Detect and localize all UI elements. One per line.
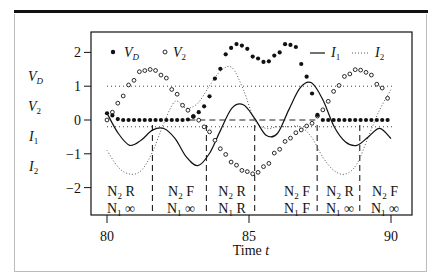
series-vd-marker	[159, 118, 163, 122]
series-vd-marker	[294, 45, 298, 49]
series-vd-marker	[278, 50, 282, 54]
series-v2-marker	[348, 72, 352, 76]
region-n1-label: N1 R	[218, 201, 246, 218]
series-v2-marker	[310, 121, 314, 125]
left-variable-labels: VD V2 I1 I2	[28, 69, 44, 176]
series-v2-marker	[137, 70, 141, 74]
series-vd-marker	[326, 118, 330, 122]
series-v2-marker	[353, 68, 357, 72]
series-v2-marker	[262, 165, 266, 169]
region-n2-label: N2 R	[107, 184, 135, 201]
series-vd-marker	[197, 110, 201, 114]
legend-i2-label: I2	[374, 45, 384, 62]
var-label-i2: I2	[28, 159, 38, 176]
series-vd-marker	[240, 43, 244, 47]
series-vd-marker	[132, 118, 136, 122]
series-v2-marker	[359, 68, 363, 72]
var-label-i1: I1	[28, 129, 38, 146]
y-tick-label: 0	[74, 113, 81, 128]
y-tick-label: 2	[74, 45, 81, 60]
plot-area	[91, 32, 412, 215]
series-vd-marker	[121, 118, 125, 122]
region-n2-label: N2 R	[218, 184, 246, 201]
series-vd-marker	[256, 56, 260, 60]
series-v2-marker	[380, 86, 384, 90]
series-v2-marker	[159, 73, 163, 77]
series-vd-marker	[310, 91, 314, 95]
series-v2-marker	[256, 170, 260, 174]
series-v2-marker	[186, 108, 190, 112]
series-v2-marker	[164, 76, 168, 80]
series-v2-marker	[240, 168, 244, 172]
series-v2-marker	[121, 94, 125, 98]
series-v2-marker	[267, 162, 271, 166]
y-tick-label: −2	[66, 181, 81, 196]
series-vd-marker	[153, 118, 157, 122]
series-vd-marker	[105, 111, 109, 115]
region-n1-label: N1 ∞	[326, 201, 354, 218]
series-v2-marker	[213, 138, 217, 142]
var-label-vd: VD	[28, 69, 44, 86]
series-vd-marker	[305, 75, 309, 79]
series-vd-marker	[110, 113, 114, 117]
series-vd-marker	[251, 54, 255, 58]
series-vd-marker	[126, 118, 130, 122]
series-v2-marker	[343, 75, 347, 79]
series-vd-marker	[218, 67, 222, 71]
series-v2-marker	[202, 125, 206, 129]
series-v2-marker	[305, 124, 309, 128]
series-vd-marker	[337, 118, 341, 122]
series-vd-marker	[375, 118, 379, 122]
series-v2-marker	[332, 89, 336, 93]
series-curves	[105, 42, 391, 176]
series-vd-marker	[359, 118, 363, 122]
series-vd-marker	[148, 118, 152, 122]
y-tick-label: 1	[74, 79, 81, 94]
series-v2-marker	[364, 70, 368, 74]
series-vd-marker	[267, 59, 271, 63]
series-vd-marker	[288, 43, 292, 47]
series-v2-marker	[386, 96, 390, 100]
region-n2-label: N2 F	[284, 184, 310, 201]
series-vd-marker	[207, 94, 211, 98]
series-v2-marker	[218, 147, 222, 151]
series-vd-marker	[332, 118, 336, 122]
series-v2-marker	[321, 108, 325, 112]
series-v2-marker	[337, 84, 341, 88]
series-vd-marker	[175, 118, 179, 122]
series-v2-marker	[181, 103, 185, 107]
series-vd-marker	[186, 117, 190, 121]
x-tick-label: 80	[100, 229, 114, 244]
region-n2-label: N2 F	[168, 184, 194, 201]
series-vd-marker	[364, 118, 368, 122]
series-v2-marker	[289, 136, 293, 140]
series-vd-marker	[191, 114, 195, 118]
x-tick-label: 90	[384, 229, 398, 244]
series-vd-marker	[315, 113, 319, 117]
series-vd-marker	[321, 118, 325, 122]
series-vd-marker	[261, 60, 265, 64]
series-v2-marker	[283, 140, 287, 144]
series-vd-marker	[170, 118, 174, 122]
series-v2-marker	[127, 83, 131, 87]
series-v2-marker	[229, 160, 233, 164]
region-n1-label: N1 ∞	[371, 201, 399, 218]
series-vd-marker	[224, 52, 228, 56]
series-v2-marker	[299, 128, 303, 132]
series-v2-marker	[326, 99, 330, 103]
region-n1-label: N1 F	[284, 201, 310, 218]
series-i1-line	[107, 82, 391, 166]
series-v2-marker	[375, 82, 379, 86]
legend-v2-label: V2	[173, 45, 186, 62]
series-vd-marker	[180, 118, 184, 122]
series-v2-marker	[143, 69, 147, 73]
series-vd-marker	[272, 53, 276, 57]
region-n1-label: N1 ∞	[107, 201, 135, 218]
x-axis-label: Time t	[233, 243, 271, 258]
series-v2-marker	[235, 163, 239, 167]
series-vd-marker	[348, 118, 352, 122]
series-vd-marker	[380, 118, 384, 122]
series-vd-marker	[164, 118, 168, 122]
series-v2-marker	[294, 131, 298, 135]
series-v2-marker	[251, 172, 255, 176]
